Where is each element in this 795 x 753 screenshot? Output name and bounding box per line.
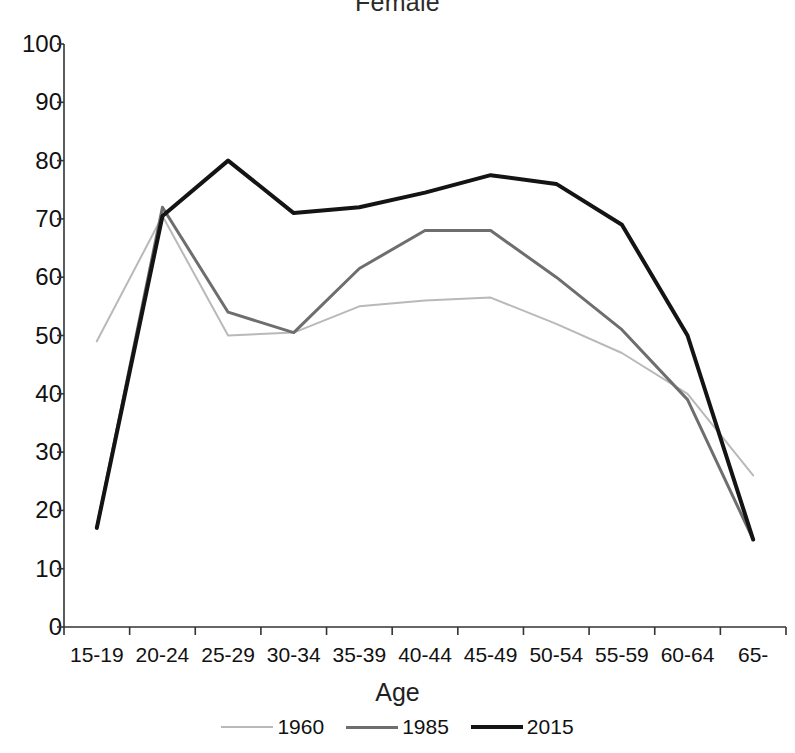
plot-area: 0102030405060708090100 15-1920-2425-2930… [0, 0, 795, 753]
legend-swatch-1960 [221, 726, 273, 728]
x-axis-tick-label: 30-34 [267, 644, 321, 666]
x-axis-tick-label: 55-59 [595, 644, 649, 666]
x-axis-tick-label: 25-29 [201, 644, 255, 666]
legend-label: 2015 [527, 716, 574, 738]
legend-item-1985[interactable]: 1985 [346, 716, 449, 738]
x-axis-tick-label: 20-24 [136, 644, 190, 666]
x-axis-tick-label: 40-44 [398, 644, 452, 666]
legend-swatch-1985 [346, 726, 398, 729]
legend-swatch-2015 [471, 725, 523, 729]
chart-legend: 196019852015 [0, 716, 795, 738]
series-lines-svg [0, 0, 795, 753]
series-line-1960 [97, 216, 753, 475]
chart-container: Female 0102030405060708090100 15-1920-24… [0, 0, 795, 753]
x-axis-tick-label: 65- [738, 644, 768, 666]
series-line-2015 [97, 161, 753, 540]
legend-label: 1960 [277, 716, 324, 738]
legend-label: 1985 [402, 716, 449, 738]
x-axis-tick-label: 50-54 [529, 644, 583, 666]
x-axis-title: Age [0, 678, 795, 707]
x-axis-tick-label: 60-64 [661, 644, 715, 666]
x-axis-tick-label: 15-19 [70, 644, 124, 666]
x-axis-tick-label: 45-49 [464, 644, 518, 666]
legend-item-1960[interactable]: 1960 [221, 716, 324, 738]
legend-item-2015[interactable]: 2015 [471, 716, 574, 738]
x-axis-tick-label: 35-39 [333, 644, 387, 666]
